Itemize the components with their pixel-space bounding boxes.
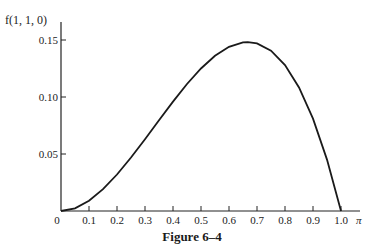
y-tick-label: 0.15 — [39, 34, 59, 46]
x-tick-label: 0.1 — [82, 214, 96, 226]
x-tick-label: 0.2 — [110, 214, 124, 226]
x-tick-label: 0 — [54, 214, 60, 226]
x-axis-label: π — [356, 214, 362, 226]
y-tick-label: 0.10 — [39, 91, 59, 103]
data-curve — [61, 42, 341, 211]
chart: 0.050.100.15 f(1, 1, 0) 00.10.20.30.40.5… — [0, 0, 383, 252]
x-tick-label: 0.3 — [138, 214, 152, 226]
x-tick-label: 0.6 — [222, 214, 236, 226]
y-tick-label: 0.05 — [39, 148, 59, 160]
x-tick-label: 0.9 — [306, 214, 320, 226]
y-axis: 0.050.100.15 f(1, 1, 0) — [5, 13, 66, 211]
x-tick-label: 1.0 — [334, 214, 348, 226]
figure-caption: Figure 6–4 — [150, 229, 234, 245]
x-tick-label: 0.7 — [250, 214, 264, 226]
y-axis-label: f(1, 1, 0) — [5, 13, 47, 27]
x-tick-label: 0.5 — [194, 214, 208, 226]
x-axis: 00.10.20.30.40.50.60.70.80.91.0 π — [54, 206, 362, 226]
x-tick-label: 0.4 — [166, 214, 180, 226]
x-tick-label: 0.8 — [278, 214, 292, 226]
